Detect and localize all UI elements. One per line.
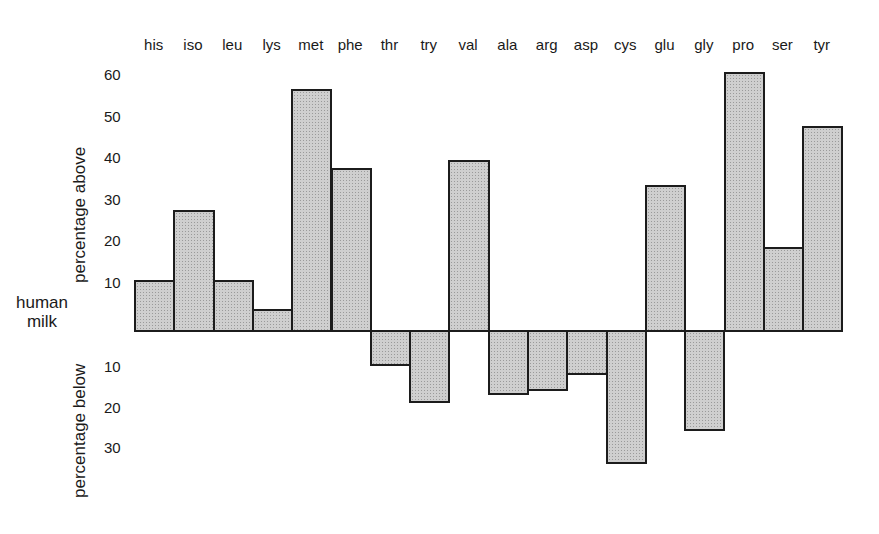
bar-asp bbox=[566, 330, 607, 375]
bar-glu bbox=[645, 185, 686, 332]
tick-above-20: 20 bbox=[104, 232, 134, 249]
tick-above-10: 10 bbox=[104, 274, 134, 291]
bar-iso bbox=[173, 210, 214, 332]
category-label-pro: pro bbox=[723, 36, 763, 53]
category-label-tyr: tyr bbox=[802, 36, 842, 53]
bar-gly bbox=[684, 330, 725, 431]
tick-below-30: 30 bbox=[104, 439, 134, 456]
baseline-label: human milk bbox=[2, 293, 82, 331]
tick-above-60: 60 bbox=[104, 66, 134, 83]
category-label-met: met bbox=[291, 36, 331, 53]
baseline-label-line1: human bbox=[2, 293, 82, 312]
category-label-try: try bbox=[409, 36, 449, 53]
tick-above-30: 30 bbox=[104, 191, 134, 208]
bar-tyr bbox=[802, 126, 843, 332]
tick-above-40: 40 bbox=[104, 149, 134, 166]
category-label-thr: thr bbox=[369, 36, 409, 53]
y-axis-title-below: percentage below bbox=[70, 364, 90, 498]
category-label-iso: iso bbox=[173, 36, 213, 53]
category-label-phe: phe bbox=[330, 36, 370, 53]
category-label-his: his bbox=[134, 36, 174, 53]
category-label-ser: ser bbox=[762, 36, 802, 53]
amino-acid-deviation-chart: hisisoleulysmetphethrtryvalalaargaspcysg… bbox=[0, 0, 879, 534]
bar-thr bbox=[370, 330, 411, 366]
tick-below-20: 20 bbox=[104, 399, 134, 416]
bar-try bbox=[409, 330, 450, 403]
category-label-asp: asp bbox=[566, 36, 606, 53]
bar-leu bbox=[213, 280, 254, 332]
y-axis-title-above: percentage above bbox=[70, 147, 90, 283]
category-label-lys: lys bbox=[252, 36, 292, 53]
tick-below-10: 10 bbox=[104, 358, 134, 375]
tick-above-50: 50 bbox=[104, 108, 134, 125]
category-label-arg: arg bbox=[527, 36, 567, 53]
bar-pro bbox=[724, 72, 765, 332]
bar-arg bbox=[527, 330, 568, 391]
bar-ser bbox=[763, 247, 804, 332]
bar-met bbox=[291, 89, 332, 332]
category-label-ala: ala bbox=[487, 36, 527, 53]
baseline-label-line2: milk bbox=[2, 312, 82, 331]
bar-phe bbox=[331, 168, 372, 332]
bar-val bbox=[448, 160, 489, 332]
bar-his bbox=[134, 280, 175, 332]
category-label-glu: glu bbox=[645, 36, 685, 53]
category-label-val: val bbox=[448, 36, 488, 53]
bar-ala bbox=[488, 330, 529, 395]
category-label-gly: gly bbox=[684, 36, 724, 53]
bar-cys bbox=[606, 330, 647, 464]
category-label-leu: leu bbox=[212, 36, 252, 53]
category-label-cys: cys bbox=[605, 36, 645, 53]
bar-lys bbox=[252, 309, 293, 332]
